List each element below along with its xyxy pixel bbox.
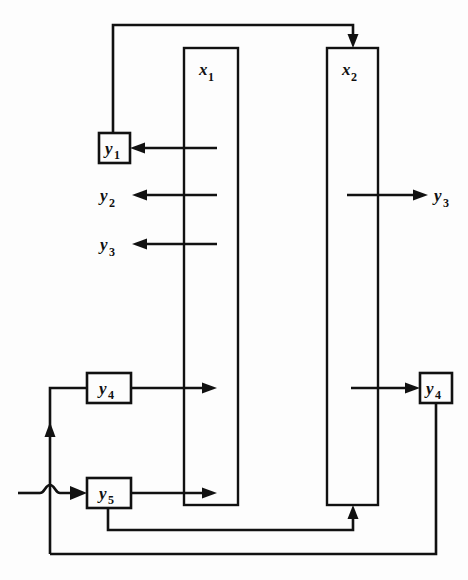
arrowhead-into-x2-bottom [348,505,359,519]
column-x1 [184,48,238,505]
label-y3-left-sub: 3 [109,245,115,259]
box-label-y4-right-sub: 4 [435,388,441,402]
column-label-x1: x [198,60,208,79]
column-label-x1-sub: 1 [208,70,214,84]
label-y3-right-sub: 3 [443,196,449,210]
arrowhead-y2-output [132,190,147,201]
label-y2: y [98,186,108,205]
column-label-x2: x [341,60,351,79]
box-label-y4-left-sub: 4 [108,388,114,402]
box-label-y1: y [103,139,113,158]
label-y2-sub: 2 [109,196,115,210]
column-x2 [327,48,378,505]
box-label-y4-right: y [424,379,434,398]
arrowhead-into-x2-top [348,34,359,48]
flow-diagram-svg: x 1 x 2 y 1 y 2 y 3 y 3 y 4 y 5 y 4 [0,0,468,580]
arrowhead-into-y5 [70,486,87,500]
arrowhead-y3-output-right [413,190,428,201]
arrowhead-y1-input [130,143,145,154]
wire-y5-to-x2-bottom [108,508,353,530]
box-label-y1-sub: 1 [114,148,120,162]
box-label-y4-left: y [97,379,107,398]
box-label-y5: y [97,484,107,503]
box-label-y5-sub: 5 [108,493,114,507]
arrowhead-y3-output-left [132,239,147,250]
diagram-canvas: x 1 x 2 y 1 y 2 y 3 y 3 y 4 y 5 y 4 [0,0,468,580]
column-label-x2-sub: 2 [351,70,357,84]
label-y3-right: y [432,186,442,205]
arrowhead-into-y4-right [405,383,420,394]
label-y3-left: y [98,235,108,254]
wire-bottom-loop-to-y4 [50,388,87,554]
arrowhead-up-feed [45,422,56,437]
